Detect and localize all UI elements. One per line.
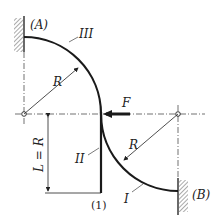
segment-i-label: I xyxy=(123,192,129,206)
beam-diagram: (A) (B) R R F III II I L = R (1) xyxy=(0,0,223,223)
support-a-label: (A) xyxy=(30,18,48,32)
segment-iii-label: III xyxy=(78,27,93,41)
support-a xyxy=(14,16,24,52)
arc-segment-iii xyxy=(24,37,101,114)
force-label: F xyxy=(121,96,131,110)
leader-i xyxy=(132,184,143,192)
radius-label-top: R xyxy=(52,75,62,89)
support-b-label: (B) xyxy=(192,188,211,202)
arc-segment-i xyxy=(101,114,178,191)
force-arrowhead-icon xyxy=(103,110,112,118)
length-label: L = R xyxy=(32,137,46,173)
radius-label-bottom: R xyxy=(128,138,138,152)
support-b xyxy=(178,178,188,215)
segment-ii-label: II xyxy=(74,152,85,166)
radius-arrow-bottom xyxy=(124,114,178,160)
leader-ii xyxy=(88,148,99,155)
leader-iii xyxy=(69,37,78,42)
radius-arrow-top xyxy=(24,68,78,114)
point-1-label: (1) xyxy=(91,199,107,212)
